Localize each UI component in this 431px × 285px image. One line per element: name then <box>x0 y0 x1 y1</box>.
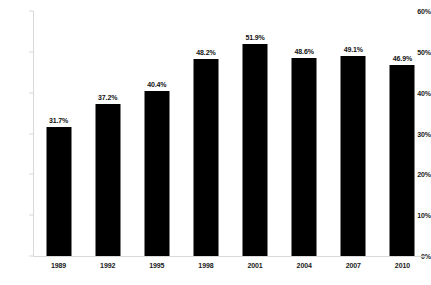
bar-value-label: 48.2% <box>196 49 215 56</box>
bar-chart: 0%10%20%30%40%50%60% 31.7%37.2%40.4%48.2… <box>0 0 431 285</box>
bar-group: 48.2% <box>181 11 230 256</box>
bar <box>95 104 120 256</box>
y-axis-tick-mark <box>29 11 33 12</box>
x-axis-tick-label: 1998 <box>198 262 213 269</box>
bar-group: 31.7% <box>34 11 83 256</box>
bar-value-label: 37.2% <box>98 94 117 101</box>
plot-area: 31.7%37.2%40.4%48.2%51.9%48.6%49.1%46.9% <box>34 11 427 256</box>
x-axis-tick-label: 1992 <box>100 262 115 269</box>
x-axis-tick-label: 1989 <box>51 262 66 269</box>
x-axis-tick-label: 2007 <box>346 262 361 269</box>
bar-group: 46.9% <box>378 11 427 256</box>
y-axis-tick-mark <box>29 51 33 52</box>
bar-group: 49.1% <box>329 11 378 256</box>
x-axis-line <box>33 256 427 257</box>
bar-value-label: 49.1% <box>344 46 363 53</box>
bar-group: 51.9% <box>231 11 280 256</box>
bar <box>390 65 415 257</box>
y-axis-tick-mark <box>29 92 33 93</box>
bar <box>292 58 317 256</box>
bar-group: 48.6% <box>280 11 329 256</box>
bar-value-label: 48.6% <box>295 48 314 55</box>
bar-group: 40.4% <box>132 11 181 256</box>
bar <box>341 56 366 256</box>
y-axis-tick-mark <box>29 133 33 134</box>
y-axis-tick-mark <box>29 215 33 216</box>
y-axis-tick-mark <box>29 174 33 175</box>
x-axis-tick-label: 2001 <box>247 262 262 269</box>
bar-value-label: 51.9% <box>245 34 264 41</box>
x-axis-tick-label: 1995 <box>149 262 164 269</box>
bar <box>243 44 268 256</box>
bar-group: 37.2% <box>83 11 132 256</box>
x-axis-tick-label: 2004 <box>297 262 312 269</box>
bar <box>144 91 169 256</box>
x-axis-tick-label: 2010 <box>395 262 410 269</box>
bar <box>46 127 71 256</box>
bar-value-label: 46.9% <box>393 55 412 62</box>
bar-value-label: 40.4% <box>147 81 166 88</box>
bar-value-label: 31.7% <box>49 117 68 124</box>
bar <box>193 59 218 256</box>
